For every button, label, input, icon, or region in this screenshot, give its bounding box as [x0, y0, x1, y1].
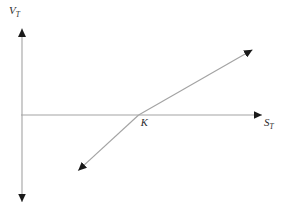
payoff-line-group [78, 50, 252, 171]
payoff-line-upper-segment [139, 50, 253, 115]
x-axis-label-subscript: T [270, 122, 274, 131]
payoff-line-lower-segment [78, 115, 139, 171]
payoff-diagram-figure: VT ST K [0, 0, 287, 218]
strike-price-label: K [141, 118, 148, 129]
y-axis-label: VT [9, 5, 20, 19]
y-axis-label-main: V [9, 4, 16, 16]
payoff-plot-canvas [0, 0, 287, 218]
x-axis-label: ST [264, 117, 274, 131]
y-axis-label-subscript: T [16, 10, 20, 19]
